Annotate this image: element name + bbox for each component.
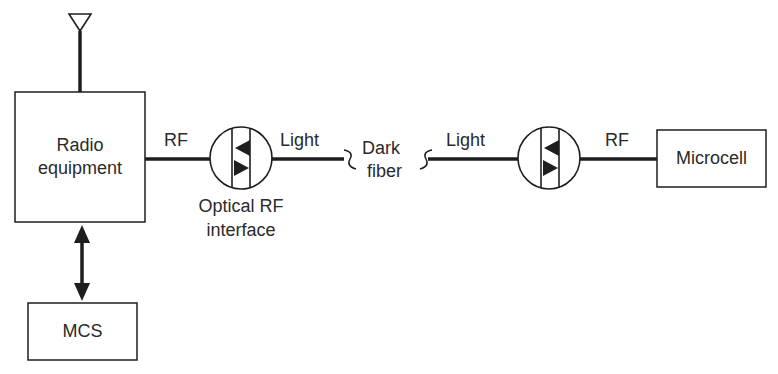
dark-fiber-label-line2: fiber bbox=[367, 160, 402, 182]
light-left-label: Light bbox=[280, 129, 319, 151]
optical-rf-interface-caption-line1: Optical RF bbox=[190, 195, 292, 217]
microcell-label: Microcell bbox=[657, 130, 766, 187]
rf-right-label: RF bbox=[605, 129, 629, 151]
mcs-label: MCS bbox=[28, 303, 137, 360]
optical-transceiver-icon-right bbox=[518, 127, 580, 189]
radio-equipment-label: Radio equipment bbox=[15, 92, 145, 222]
radio-equipment-label-line1: Radio bbox=[56, 134, 103, 157]
optical-rf-interface-caption-line2: interface bbox=[190, 219, 292, 241]
dark-fiber-label-line1: Dark bbox=[362, 137, 400, 159]
antenna-icon bbox=[69, 14, 91, 92]
radio-equipment-label-line2: equipment bbox=[38, 157, 122, 180]
optical-transceiver-icon-left bbox=[210, 127, 272, 189]
fiber-break-icon-left bbox=[344, 150, 356, 169]
mcs-label-text: MCS bbox=[63, 320, 103, 343]
rf-left-label: RF bbox=[164, 129, 188, 151]
microcell-label-text: Microcell bbox=[676, 147, 747, 170]
bidirectional-arrow-icon bbox=[74, 225, 90, 301]
light-right-label: Light bbox=[446, 129, 485, 151]
